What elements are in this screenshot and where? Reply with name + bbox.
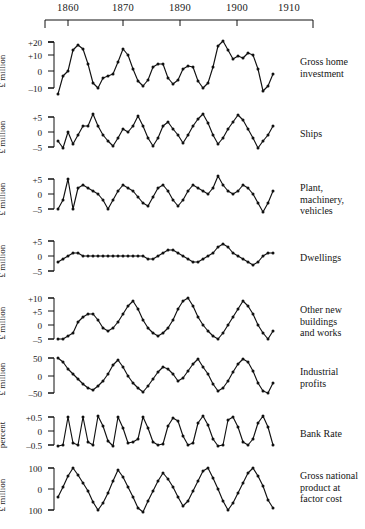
series-caption: Gross home investment — [300, 56, 348, 79]
data-markers — [57, 175, 275, 214]
data-markers — [57, 467, 275, 514]
series-caption: Ships — [300, 128, 322, 140]
y-axis-tick-label: –5 — [14, 335, 42, 345]
y-axis-unit-label: £ million — [0, 307, 7, 340]
y-axis-tick-label: –5 — [14, 143, 42, 153]
panel-gross-home-investment: £ million +20 +10 0 –10 Gross home inves… — [0, 36, 365, 106]
panel-other-new-buildings-and-works: £ million +10 +5 0 –5 Other new building… — [0, 292, 365, 356]
y-axis-unit-label: £ million — [0, 121, 7, 154]
series-caption: Industrial profits — [300, 366, 338, 389]
y-axis-unit-label: £ million — [0, 245, 7, 278]
y-axis-tick-label: –5 — [14, 267, 42, 277]
y-axis-tick-label: +5 — [14, 307, 42, 317]
x-axis-tick-label: 1910 — [278, 2, 300, 13]
series-caption: Plant, machinery, vehicles — [300, 182, 344, 217]
series-caption: Other new buildings and works — [300, 304, 342, 339]
x-axis-labels: 1860 1870 1890 1900 1910 — [0, 0, 365, 18]
y-axis-tick-label: 0 — [14, 321, 42, 331]
y-axis-unit-label: £ million — [0, 363, 7, 396]
y-axis-tick-label: 0 — [14, 372, 42, 382]
y-axis-tick-label: 0 — [14, 190, 42, 200]
panel-bank-rate: percent +0.5 0 –0.5 Bank Rate — [0, 410, 365, 462]
y-axis-tick-label: 100 — [10, 464, 42, 474]
x-axis-tick-label: 1860 — [57, 2, 79, 13]
y-axis-tick-label: +0.5 — [6, 413, 42, 423]
y-axis-unit-label: £ million — [0, 55, 7, 88]
panel-plant-machinery-vehicles: £ million +5 0 –5 Plant, machinery, vehi… — [0, 172, 365, 230]
y-axis-tick-label: +5 — [14, 113, 42, 123]
y-axis-unit-label: £ million — [0, 479, 7, 512]
data-markers — [57, 415, 275, 448]
y-axis-tick-label: 0 — [14, 67, 42, 77]
y-axis-tick-label: –50 — [10, 389, 42, 399]
y-axis-tick-label: +10 — [14, 51, 42, 61]
x-axis-tick-label: 1870 — [112, 2, 134, 13]
y-axis-unit-label: £ million — [0, 183, 7, 216]
series-caption: Gross national product at factor cost — [300, 470, 358, 505]
y-axis-tick-label: +20 — [14, 38, 42, 48]
y-axis-tick-label: +5 — [14, 175, 42, 185]
x-axis-tick-label: 1890 — [169, 2, 191, 13]
y-axis-tick-label: 0 — [14, 252, 42, 262]
x-axis-tick-label: 1900 — [226, 2, 248, 13]
series-caption: Bank Rate — [300, 428, 342, 440]
y-axis-tick-label: 100 — [10, 506, 42, 516]
y-axis-tick-label: +10 — [14, 294, 42, 304]
y-axis-tick-label: 0 — [14, 128, 42, 138]
y-axis-tick-label: –5 — [14, 205, 42, 215]
y-axis-tick-label: –0.5 — [3, 441, 42, 451]
panel-ships: £ million +5 0 –5 Ships — [0, 110, 365, 168]
panel-dwellings: £ million +5 0 –5 Dwellings — [0, 234, 365, 292]
cycle-chart-figure: 1860 1870 1890 1900 1910 £ million +20 +… — [0, 0, 365, 529]
y-axis-tick-label: 0 — [6, 427, 42, 437]
y-axis-tick-label: 50 — [14, 354, 42, 364]
y-axis-tick-label: +5 — [14, 237, 42, 247]
data-markers — [57, 357, 275, 395]
data-markers — [57, 243, 275, 267]
y-axis-tick-label: –10 — [14, 84, 42, 94]
y-axis-tick-label: 0 — [10, 485, 42, 495]
panel-industrial-profits: £ million 50 0 –50 Industrial profits — [0, 352, 365, 410]
panel-gross-national-product: £ million 100 0 100 Gross national produ… — [0, 462, 365, 529]
x-axis-rule — [0, 17, 365, 31]
series-caption: Dwellings — [300, 252, 341, 264]
